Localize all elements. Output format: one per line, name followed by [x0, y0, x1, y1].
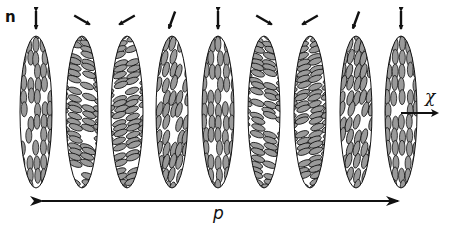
layer-ellipse	[53, 26, 110, 194]
layer-ellipse	[377, 24, 420, 197]
cholesteric-diagram	[0, 0, 454, 227]
layer-ellipse	[12, 23, 55, 196]
layer-ellipse	[146, 23, 193, 198]
director-arrow-icon	[302, 16, 318, 25]
director-arrow-icon	[353, 12, 359, 29]
layer-ellipse	[281, 25, 338, 193]
director-arrow-icon	[256, 16, 272, 25]
director-arrow-icon	[169, 12, 175, 29]
director-label: n	[5, 8, 16, 26]
director-arrow-icon	[119, 16, 135, 25]
layer-ellipse	[98, 26, 155, 195]
layer-ellipse	[235, 26, 292, 194]
layer-ellipse	[330, 22, 377, 196]
director-arrow-icon	[74, 16, 90, 25]
layer-ellipse	[194, 24, 238, 197]
helix-axis-label: χ	[425, 86, 435, 106]
pitch-label: p	[213, 203, 224, 223]
